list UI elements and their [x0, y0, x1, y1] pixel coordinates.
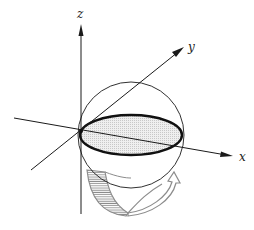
- equatorial-disk: [80, 115, 182, 155]
- z-axis-label: z: [76, 7, 84, 21]
- rotation-arrow-icon: [87, 170, 180, 216]
- origin-point: [79, 129, 83, 133]
- x-axis-label: x: [239, 150, 246, 164]
- y-axis-label: y: [187, 40, 195, 54]
- rotation-diagram: z y x: [0, 0, 254, 230]
- z-axis: [79, 24, 84, 214]
